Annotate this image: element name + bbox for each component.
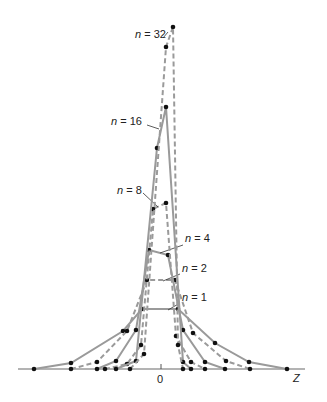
data-point-marker: [128, 367, 133, 372]
data-point-marker: [176, 343, 181, 348]
chart-canvas: 0 Z n = 1n = 2n = 4n = 8n = 16n = 32: [0, 0, 327, 402]
data-point-marker: [285, 367, 290, 372]
data-point-marker: [247, 360, 252, 365]
series-line: [71, 280, 250, 369]
annotation-leader: [160, 245, 183, 253]
data-point-marker: [189, 360, 194, 365]
zero-tick-label: 0: [157, 373, 163, 385]
series-annotation-label: n = 4: [185, 232, 210, 244]
x-axis-label: Z: [292, 372, 301, 384]
data-point-marker: [164, 45, 169, 50]
data-point-marker: [248, 367, 253, 372]
data-point-marker: [139, 343, 144, 348]
data-point-marker: [125, 329, 130, 334]
data-point-marker: [203, 367, 208, 372]
data-point-marker: [142, 352, 147, 357]
series-n2: n = 2: [69, 262, 253, 371]
data-point-marker: [189, 367, 194, 372]
data-point-marker: [191, 331, 196, 336]
data-point-marker: [95, 360, 100, 365]
series-n32: n = 32: [128, 25, 186, 372]
series-annotation-label: n = 32: [135, 28, 166, 40]
data-point-marker: [164, 105, 169, 110]
series-annotation-label: n = 1: [182, 291, 207, 303]
data-point-marker: [224, 359, 229, 364]
annotation-leader: [147, 125, 159, 129]
series-layer: n = 1n = 2n = 4n = 8n = 16n = 32: [32, 25, 290, 372]
series-line: [105, 203, 205, 369]
data-point-marker: [223, 367, 228, 372]
data-point-marker: [114, 359, 119, 364]
data-point-marker: [69, 367, 74, 372]
data-point-marker: [134, 328, 139, 333]
data-point-marker: [103, 367, 108, 372]
data-point-marker: [181, 367, 186, 372]
data-point-marker: [203, 360, 208, 365]
data-point-marker: [69, 361, 74, 366]
series-annotation-label: n = 2: [182, 262, 207, 274]
series-n1: n = 1: [32, 291, 290, 371]
series-n4: n = 4: [95, 232, 228, 371]
data-point-marker: [164, 201, 169, 206]
series-annotation-label: n = 8: [117, 184, 142, 196]
data-point-marker: [213, 341, 218, 346]
data-point-marker: [114, 367, 119, 372]
series-annotation-label: n = 16: [111, 115, 142, 127]
data-point-marker: [32, 367, 37, 372]
data-point-marker: [171, 25, 176, 30]
data-point-marker: [95, 367, 100, 372]
